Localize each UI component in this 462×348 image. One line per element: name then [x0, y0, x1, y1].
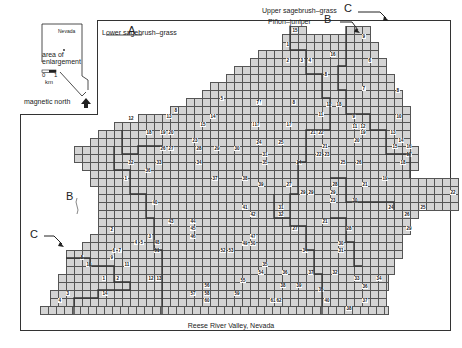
scale-one: 1: [54, 72, 57, 78]
pinon-juniper-label: Piñon–juniper: [268, 18, 311, 25]
locator-inset: Nevada area of enlargement 0 1 km magnet…: [20, 20, 98, 115]
nevada-label: Nevada: [58, 28, 75, 34]
scale-unit: km: [45, 79, 53, 85]
lower-sagebrush-label: Lower sagebrush–grass: [102, 29, 177, 36]
left-b-letter: B: [66, 190, 73, 202]
lower-sagebrush-letter: A: [128, 24, 135, 36]
area-label-1: area of: [42, 51, 64, 58]
left-c-letter: C: [30, 228, 38, 240]
pinon-juniper-letter: B: [324, 13, 331, 25]
scale-zero: 0: [42, 72, 45, 78]
north-arrow-icon: [81, 98, 91, 108]
magnetic-north-label: magnetic north: [24, 98, 70, 105]
area-label-2: enlargement: [42, 58, 81, 65]
upper-sagebrush-letter: C: [344, 2, 352, 14]
